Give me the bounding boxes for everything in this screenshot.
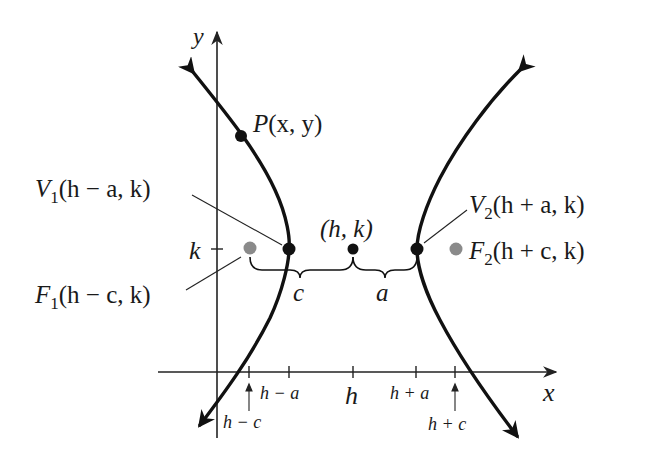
x-tick-label-h: h — [345, 381, 358, 410]
brace-label-c: c — [293, 279, 304, 306]
x-tick-label-h-plus-a: h + a — [390, 383, 429, 403]
label-V1: V1(h − a, k) — [35, 175, 151, 207]
label-P: P(x, y) — [252, 110, 322, 138]
brace-c — [250, 257, 353, 278]
x-tick-label-h-minus-c: h − c — [223, 412, 261, 432]
label-F2: F2(h + c, k) — [468, 237, 585, 269]
y-tick-label-k: k — [189, 236, 201, 265]
x-tick-label-h-plus-c: h + c — [428, 414, 466, 434]
x-tick-label-h-minus-a: h − a — [260, 383, 299, 403]
label-V2: V2(h + a, k) — [469, 191, 585, 223]
brace-a — [353, 257, 417, 278]
distance-braces — [250, 257, 417, 278]
label-F1: F1(h − c, k) — [34, 281, 151, 313]
y-axis-label: y — [191, 23, 204, 49]
label-center: (h, k) — [320, 215, 373, 243]
brace-label-a: a — [376, 279, 389, 306]
center-point — [348, 244, 359, 255]
vertex-V2 — [411, 243, 424, 256]
point-P — [235, 130, 247, 142]
focus-F1 — [244, 242, 257, 255]
vertex-V1 — [283, 243, 296, 256]
focus-F2 — [450, 243, 463, 256]
hyperbola-diagram: y x k h − a h h + a h − c h + c P(x, y) … — [0, 0, 645, 461]
x-axis-label: x — [542, 378, 555, 407]
